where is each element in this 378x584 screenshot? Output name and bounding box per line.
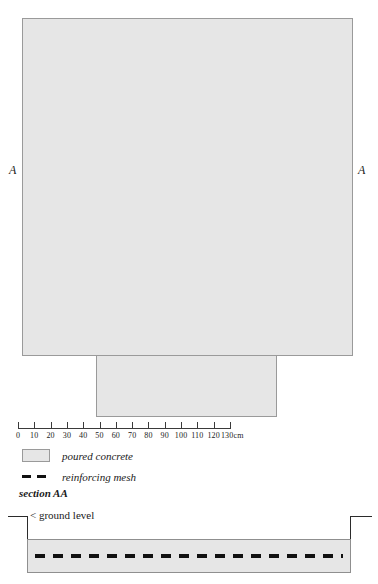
scale-tick xyxy=(67,422,68,429)
scale-tick-label: 50 xyxy=(95,431,103,440)
scale-tick-label: 60 xyxy=(112,431,120,440)
scale-tick xyxy=(100,422,101,429)
section-reinforcing-mesh xyxy=(35,554,343,558)
scale-tick xyxy=(18,422,19,429)
scale-tick-label: 20 xyxy=(46,431,54,440)
mesh-dash-swatch-icon xyxy=(22,470,50,483)
legend-item-poured-concrete: poured concrete xyxy=(22,447,252,464)
ground-level-label: < ground level xyxy=(30,509,94,521)
scale-tick-label: 80 xyxy=(144,431,152,440)
plan-concrete-apron xyxy=(96,356,277,417)
scale-tick xyxy=(116,422,117,429)
section-marker-right-a: A xyxy=(358,164,365,176)
scale-tick xyxy=(181,422,182,429)
scale-tick-label: 130cm xyxy=(221,431,244,440)
scale-tick xyxy=(132,422,133,429)
scale-tick xyxy=(83,422,84,429)
drawing-sheet: A A 0102030405060708090100110120130cm po… xyxy=(0,0,378,584)
scale-bar: 0102030405060708090100110120130cm xyxy=(18,422,230,444)
scale-tick-label: 90 xyxy=(161,431,169,440)
excavation-riser-left xyxy=(27,516,28,539)
section-title: section AA xyxy=(19,487,68,499)
scale-tick-label: 30 xyxy=(63,431,71,440)
scale-tick-label: 100 xyxy=(175,431,188,440)
scale-tick-label: 0 xyxy=(16,431,20,440)
scale-tick xyxy=(51,422,52,429)
ground-line-left xyxy=(8,516,27,517)
scale-tick xyxy=(197,422,198,429)
scale-tick xyxy=(165,422,166,429)
scale-tick-label: 70 xyxy=(128,431,136,440)
section-aa-view: < ground level xyxy=(0,505,378,584)
legend: poured concrete reinforcing mesh xyxy=(22,447,252,489)
scale-tick xyxy=(148,422,149,429)
scale-tick-label: 10 xyxy=(30,431,38,440)
section-marker-left-a: A xyxy=(9,164,16,176)
concrete-swatch-icon xyxy=(22,449,50,462)
legend-item-reinforcing-mesh: reinforcing mesh xyxy=(22,468,252,485)
excavation-riser-right xyxy=(350,516,351,539)
plan-concrete-slab xyxy=(22,18,353,356)
scale-tick-label: 120 xyxy=(207,431,220,440)
scale-tick-label: 110 xyxy=(191,431,203,440)
ground-line-right xyxy=(350,516,372,517)
legend-label-poured-concrete: poured concrete xyxy=(62,450,133,462)
scale-tick xyxy=(34,422,35,429)
legend-label-reinforcing-mesh: reinforcing mesh xyxy=(62,471,136,483)
scale-tick xyxy=(214,422,215,429)
scale-tick xyxy=(230,422,231,429)
scale-tick-label: 40 xyxy=(79,431,87,440)
